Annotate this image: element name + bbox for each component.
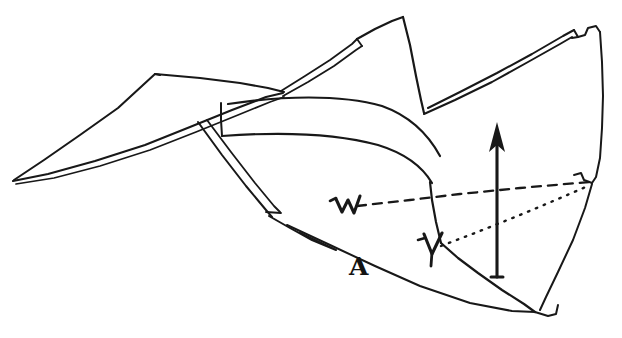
dotted-reference-line <box>441 186 588 246</box>
right-spike-upper <box>428 30 574 108</box>
label-A: A <box>349 254 368 279</box>
right-corner-notch <box>578 26 600 37</box>
central-fold-lower <box>441 243 535 312</box>
center-spike-lower <box>283 46 362 96</box>
right-body-fold <box>540 184 592 310</box>
bottom-vertex-foot <box>535 305 558 316</box>
figure-canvas: A <box>0 0 622 338</box>
shoulder-vertical <box>221 103 222 136</box>
right-vertical-edge <box>592 32 603 183</box>
center-peak-right-slope <box>403 17 424 113</box>
left-wing-top-ridge <box>155 74 284 92</box>
center-peak-left-slope <box>357 17 403 39</box>
shoulder-long-fold-outer <box>198 122 272 217</box>
right-spike-lower <box>424 37 572 114</box>
inner-lower-curve <box>222 134 432 183</box>
central-fold-upper <box>430 182 441 243</box>
center-spike-cap <box>357 39 362 46</box>
center-spike-upper <box>281 39 357 91</box>
shoulder-fold-cap <box>266 212 281 213</box>
line-drawing <box>0 0 622 338</box>
label-W <box>330 196 360 213</box>
dashed-reference-line <box>357 182 589 206</box>
label-V <box>418 233 442 266</box>
